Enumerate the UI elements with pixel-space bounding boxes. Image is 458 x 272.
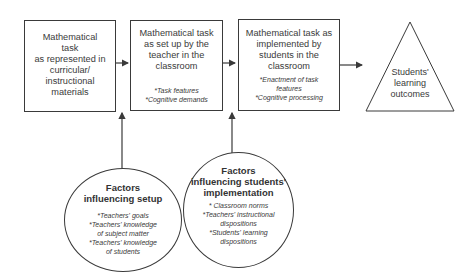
box-notes: *Enactment of task features *Cognitive p…: [239, 75, 339, 102]
note-line: of students: [65, 247, 181, 256]
box-setup-task: Mathematical task as set up by the teach…: [130, 20, 223, 111]
title-line: Mathematical task as: [239, 28, 339, 39]
note-line: *Enactment of task: [239, 75, 339, 84]
note-line: *Teachers' knowledge: [65, 238, 181, 247]
title-line: students in the: [239, 50, 339, 61]
title-line: influencing students': [184, 176, 293, 187]
note-line: dispositions: [184, 219, 293, 228]
outcome-label: Students' learning outcomes: [376, 67, 444, 100]
circle-title: Factors influencing setup: [65, 182, 181, 204]
title-line: classroom: [239, 61, 339, 72]
circle-setup-factors: Factors influencing setup *Teachers' goa…: [64, 168, 182, 272]
label-line: outcomes: [376, 89, 444, 100]
note-line: of subject matter: [65, 229, 181, 238]
title-line: curricular/: [25, 65, 115, 76]
title-line: as represented in: [25, 54, 115, 65]
box-notes: *Task features *Cognitive demands: [131, 86, 222, 104]
title-line: classroom: [131, 61, 222, 72]
circle-notes: *Teachers' goals *Teachers' knowledge of…: [65, 211, 181, 256]
box-title: Mathematical task as implemented by stud…: [239, 28, 339, 72]
title-line: instructional: [25, 76, 115, 87]
note-line: *Teachers' instructional: [184, 210, 293, 219]
title-line: Mathematical task: [131, 28, 222, 39]
title-line: implemented by: [239, 39, 339, 50]
circle-implementation-factors: Factors influencing students' implementa…: [183, 152, 294, 268]
label-line: learning: [376, 78, 444, 89]
note-line: *Teachers' goals: [65, 211, 181, 220]
title-line: Factors: [65, 182, 181, 193]
title-line: Factors: [184, 165, 293, 176]
note-line: * Classroom norms: [184, 201, 293, 210]
note-line: *Cognitive demands: [131, 95, 222, 104]
box-implemented-task: Mathematical task as implemented by stud…: [238, 19, 340, 111]
box-curricular-task: Mathematical task as represented in curr…: [24, 20, 116, 112]
note-line: features: [239, 84, 339, 93]
note-line: *Cognitive processing: [239, 93, 339, 102]
title-line: Mathematical: [25, 32, 115, 43]
box-title: Mathematical task as set up by the teach…: [131, 28, 222, 72]
title-line: as set up by the: [131, 39, 222, 50]
title-line: task: [25, 43, 115, 54]
title-line: influencing setup: [65, 193, 181, 204]
box-title: Mathematical task as represented in curr…: [25, 32, 115, 98]
label-line: Students': [376, 67, 444, 78]
note-line: *Teachers' knowledge: [65, 220, 181, 229]
circle-title: Factors influencing students' implementa…: [184, 165, 293, 198]
circle-notes: * Classroom norms *Teachers' instruction…: [184, 201, 293, 246]
title-line: teacher in the: [131, 50, 222, 61]
note-line: *Task features: [131, 86, 222, 95]
title-line: implementation: [184, 187, 293, 198]
title-line: materials: [25, 87, 115, 98]
note-line: *Students' learning: [184, 228, 293, 237]
note-line: dispositions: [184, 237, 293, 246]
